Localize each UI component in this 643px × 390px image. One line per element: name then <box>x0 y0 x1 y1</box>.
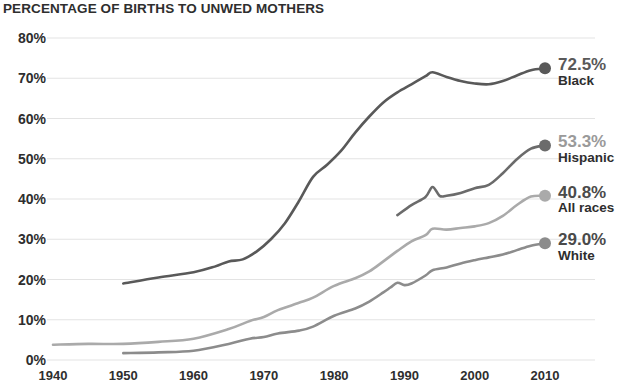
series-name: Black <box>558 74 606 88</box>
x-tick-label: 1980 <box>307 369 361 382</box>
series-name: Hispanic <box>558 151 614 165</box>
series-value: 40.8% <box>558 184 614 202</box>
series-value: 72.5% <box>558 56 606 74</box>
series-annotation-black: 72.5%Black <box>558 56 606 88</box>
series-end-dot-hispanic <box>539 139 551 151</box>
x-tick-label: 2010 <box>518 369 572 382</box>
series-name: All races <box>558 201 614 215</box>
series-name: White <box>558 249 606 263</box>
x-tick-label: 2000 <box>448 369 502 382</box>
x-tick-label: 1990 <box>377 369 431 382</box>
x-tick-label: 1950 <box>96 369 150 382</box>
chart-container: PERCENTAGE OF BIRTHS TO UNWED MOTHERS 0%… <box>0 0 643 390</box>
x-tick-label: 1960 <box>167 369 221 382</box>
series-annotation-white: 29.0%White <box>558 231 606 263</box>
series-value: 29.0% <box>558 231 606 249</box>
series-line-black <box>123 68 545 283</box>
series-end-dot-all-races <box>539 190 551 202</box>
series-line-white <box>123 243 545 353</box>
x-tick-label: 1940 <box>26 369 80 382</box>
x-tick-label: 1970 <box>237 369 291 382</box>
series-lines <box>53 68 545 353</box>
gridlines <box>47 38 595 360</box>
series-end-dot-white <box>539 237 551 249</box>
series-line-all-races <box>53 196 545 345</box>
series-line-hispanic <box>397 145 545 215</box>
series-annotation-hispanic: 53.3%Hispanic <box>558 133 614 165</box>
series-end-dot-black <box>539 62 551 74</box>
plot-area <box>0 0 643 390</box>
series-annotation-all-races: 40.8%All races <box>558 184 614 216</box>
series-end-dots <box>539 62 551 249</box>
series-value: 53.3% <box>558 133 614 151</box>
